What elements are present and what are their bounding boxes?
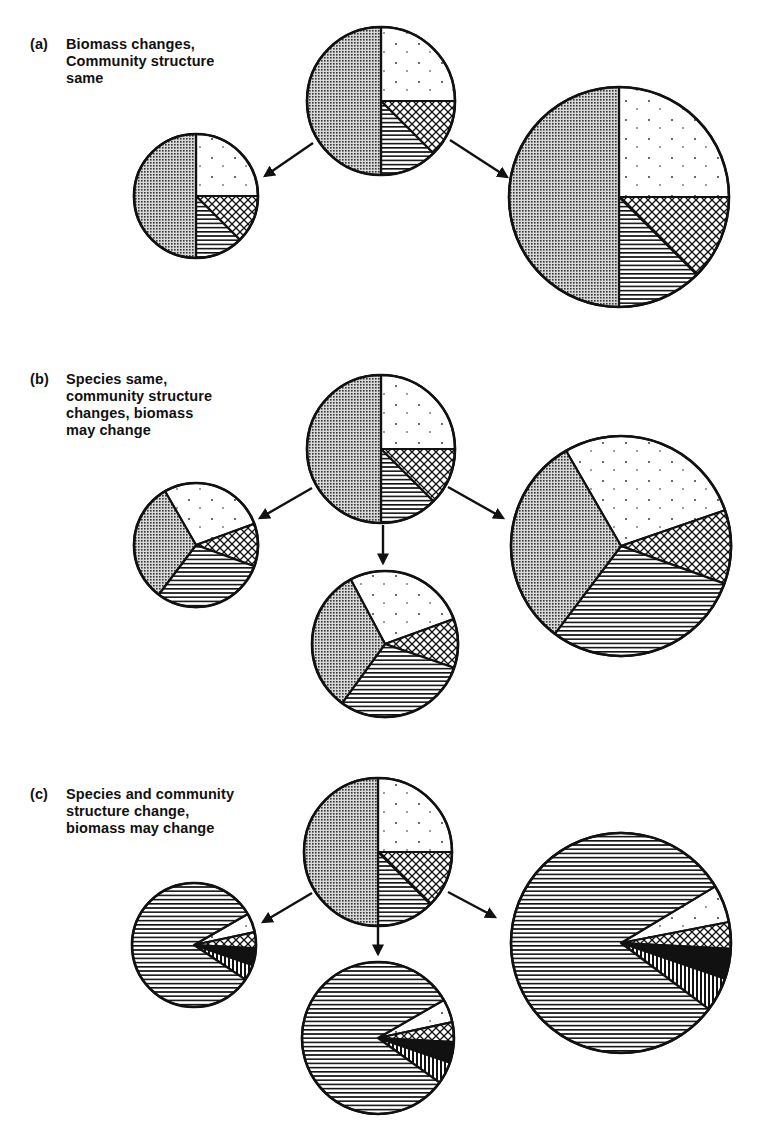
panel-b-caption-line: Species same,: [66, 371, 212, 388]
pie-b-6: [511, 436, 731, 656]
wedge-gray: [509, 87, 619, 307]
arrow-icon: [265, 143, 313, 176]
wedge-dots: [619, 87, 729, 197]
panel-b-caption-line: changes, biomass: [66, 405, 212, 422]
pie-a-2: [509, 87, 729, 307]
panel-b-caption-line: community structure: [66, 388, 212, 405]
wedge-gray: [307, 27, 381, 175]
pie-c-7: [304, 778, 452, 926]
arrow-icon: [448, 892, 495, 917]
wedge-gray: [134, 134, 196, 258]
panel-c-caption-line: Species and community: [66, 786, 234, 803]
arrow-icon: [263, 893, 312, 922]
pie-c-10: [511, 833, 731, 1053]
pie-b-5: [312, 571, 458, 717]
figure-canvas: [0, 0, 758, 1140]
pie-charts: [132, 27, 731, 1114]
arrow-icon: [450, 140, 507, 177]
panel-a-caption-line: Community structure: [66, 53, 215, 70]
pie-c-8: [132, 883, 256, 1007]
wedge-gray: [307, 375, 381, 523]
panel-a-caption-line: same: [66, 70, 215, 87]
pie-c-9: [302, 962, 454, 1114]
pie-b-4: [134, 483, 258, 607]
panel-c-tag: (c): [30, 786, 48, 803]
pie-a-0: [307, 27, 455, 175]
panel-b-caption-line: may change: [66, 422, 212, 439]
wedge-gray: [304, 778, 378, 926]
panel-a-tag: (a): [30, 36, 48, 53]
arrow-icon: [260, 488, 312, 518]
panel-c-caption-line: structure change,: [66, 803, 234, 820]
panel-b-tag: (b): [30, 371, 49, 388]
arrow-icon: [448, 487, 503, 518]
panel-c-caption-line: biomass may change: [66, 820, 234, 837]
panel-a-caption-line: Biomass changes,: [66, 36, 215, 53]
pie-a-1: [134, 134, 258, 258]
pie-b-3: [307, 375, 455, 523]
